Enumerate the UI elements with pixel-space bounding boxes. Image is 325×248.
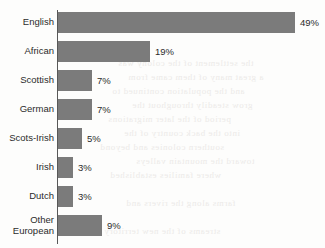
bar (58, 157, 73, 178)
bar-chart: the settlement of the colony was a great… (0, 0, 325, 248)
bar-row: Scots-Irish 5% (0, 128, 325, 149)
bar-row: English 49% (0, 12, 325, 33)
category-label: Other European (0, 215, 54, 236)
category-axis-line (57, 10, 58, 244)
plot-area: English 49% African 19% Scottish 7% Germ… (0, 0, 325, 248)
bar-row: German 7% (0, 99, 325, 120)
bar-value-label: 19% (155, 41, 174, 62)
bar-row: Scottish 7% (0, 70, 325, 91)
bar (58, 41, 150, 62)
bar-value-label: 49% (300, 12, 319, 33)
bar-value-label: 3% (78, 157, 92, 178)
category-label: African (0, 41, 54, 62)
bar (58, 215, 102, 236)
category-label: Scottish (0, 70, 54, 91)
bar (58, 99, 92, 120)
bar-value-label: 9% (107, 215, 121, 236)
bar (58, 70, 92, 91)
bar (58, 128, 82, 149)
bar (58, 12, 295, 33)
category-label: Scots-Irish (0, 128, 54, 149)
bar-row: African 19% (0, 41, 325, 62)
bar-value-label: 7% (97, 70, 111, 91)
bar-value-label: 7% (97, 99, 111, 120)
bar (58, 186, 73, 207)
category-label: Irish (0, 157, 54, 178)
bar-row: Irish 3% (0, 157, 325, 178)
bar-value-label: 3% (78, 186, 92, 207)
category-label: Dutch (0, 186, 54, 207)
category-label: German (0, 99, 54, 120)
bar-row: Other European 9% (0, 215, 325, 236)
bar-value-label: 5% (87, 128, 101, 149)
bar-row: Dutch 3% (0, 186, 325, 207)
category-label: English (0, 12, 54, 33)
